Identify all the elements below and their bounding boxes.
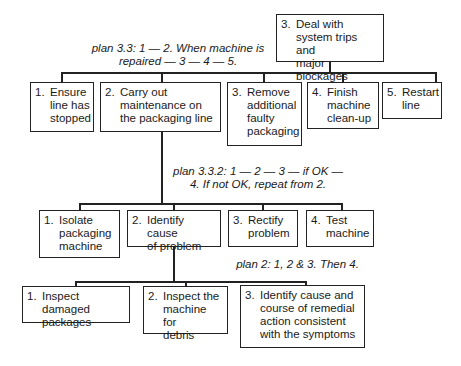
task-number: 5.: [387, 86, 402, 115]
task-number: 3.: [245, 289, 260, 344]
task-label: Rectify problem: [248, 214, 293, 243]
task-2-inspect-machine-debris: 2. Inspect the machine for debris: [143, 286, 228, 334]
task-3-rectify-problem: 3. Rectify problem: [228, 210, 298, 247]
task-3-identify-remedial-action: 3. Identify cause and course of remedial…: [240, 285, 365, 348]
task-1-ensure-line-stopped: 1. Ensure line has stopped: [30, 82, 94, 132]
task-label: Remove additional faulty packaging: [247, 86, 299, 142]
connector-level3-bar: [75, 281, 306, 283]
connector-level1-bar: [61, 72, 436, 74]
task-label: Finish machine clean-up: [327, 86, 374, 125]
task-3-deal-with-system-trips: 3. Deal with system trips and major bloc…: [276, 14, 384, 62]
task-number: 2.: [148, 290, 163, 330]
connector-l2-3: [262, 203, 264, 210]
task-5-restart-line: 5. Restart line: [382, 82, 442, 119]
task-label: Inspect damaged packages: [42, 290, 125, 319]
task-label: Test machine: [326, 214, 369, 243]
connector-l1-3: [263, 72, 265, 82]
plan-2: plan 2: 1, 2 & 3. Then 4.: [230, 258, 365, 271]
task-1-isolate-machine: 1. Isolate packaging machine: [39, 210, 120, 258]
plan-3-3-2: plan 3.3.2: 1 — 2 — 3 — if OK — 4. If no…: [168, 165, 348, 191]
task-2-carry-out-maintenance: 2. Carry out maintenance on the packagin…: [100, 82, 221, 132]
connector-l1-1: [61, 72, 63, 82]
task-number: 1.: [44, 214, 59, 254]
connector-l1-5: [435, 72, 437, 82]
task-3-remove-faulty-packaging: 3. Remove additional faulty packaging: [227, 82, 302, 146]
task-label: Restart line: [402, 86, 439, 115]
connector-l2-2: [173, 203, 175, 210]
task-label: Inspect the machine for debris: [163, 290, 223, 330]
task-number: 4.: [312, 86, 327, 125]
plan-3-3: plan 3.3: 1 — 2. When machine is repaire…: [88, 42, 268, 68]
task-number: 3.: [232, 86, 247, 142]
connector-l2-1: [79, 203, 81, 210]
task-number: 1.: [27, 290, 42, 319]
task-4-test-machine: 4. Test machine: [306, 210, 374, 247]
task-label: Carry out maintenance on the packaging l…: [120, 86, 216, 128]
task-4-finish-clean-up: 4. Finish machine clean-up: [307, 82, 379, 129]
task-label: Ensure line has stopped: [50, 86, 91, 128]
task-2-identify-cause: 2. Identify cause of problem: [127, 210, 221, 247]
task-number: 3.: [233, 214, 248, 243]
connector-l2-4: [341, 203, 343, 210]
task-number: 2.: [132, 214, 147, 243]
task-1-inspect-damaged-packages: 1. Inspect damaged packages: [22, 286, 130, 323]
connector-l1-2: [161, 72, 163, 82]
task-label: Isolate packaging machine: [59, 214, 115, 254]
task-number: 1.: [35, 86, 50, 128]
task-label: Deal with system trips and major blockag…: [296, 18, 379, 58]
connector-level2-bar: [79, 203, 342, 205]
task-number: 4.: [311, 214, 326, 243]
task-label: Identify cause of problem: [147, 214, 216, 243]
task-number: 3.: [281, 18, 296, 58]
task-label: Identify cause and course of remedial ac…: [260, 289, 360, 344]
connector-l1-2-down: [161, 131, 163, 204]
task-number: 2.: [105, 86, 120, 128]
